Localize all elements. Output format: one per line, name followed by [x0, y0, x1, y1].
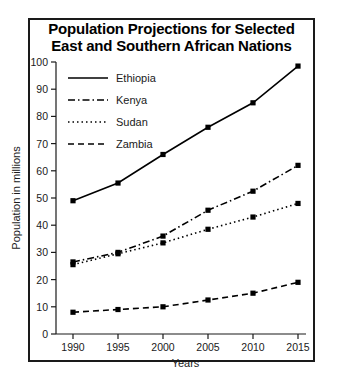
y-tick-label: 90 [36, 83, 48, 95]
x-tick-label: 2015 [286, 341, 310, 353]
series-line-kenya [73, 165, 298, 262]
data-point-kenya-2010 [250, 189, 255, 194]
data-point-ethiopia-1990 [70, 198, 75, 203]
x-tick-label: 2005 [196, 341, 220, 353]
y-tick-label: 20 [36, 274, 48, 286]
y-tick-label: 40 [36, 219, 48, 231]
data-point-ethiopia-2000 [160, 152, 165, 157]
series-line-ethiopia [73, 66, 298, 201]
data-point-sudan-2010 [250, 214, 255, 219]
x-tick-label: 2000 [151, 341, 175, 353]
data-point-kenya-2000 [160, 233, 165, 238]
data-point-kenya-2005 [205, 208, 210, 213]
data-point-ethiopia-2005 [205, 125, 210, 130]
data-point-zambia-1990 [70, 310, 75, 315]
legend-label-sudan: Sudan [116, 116, 148, 128]
data-point-ethiopia-2015 [295, 63, 300, 68]
data-point-sudan-1995 [115, 251, 120, 256]
series-zambia [70, 280, 300, 315]
data-point-ethiopia-1995 [115, 180, 120, 185]
y-tick-label: 10 [36, 301, 48, 313]
data-point-zambia-1995 [115, 307, 120, 312]
legend-label-zambia: Zambia [116, 138, 154, 150]
data-point-sudan-2015 [295, 201, 300, 206]
data-point-zambia-2015 [295, 280, 300, 285]
legend-item-ethiopia: Ethiopia [68, 72, 157, 84]
series-sudan [70, 201, 300, 267]
legend-label-ethiopia: Ethiopia [116, 72, 157, 84]
legend-item-sudan: Sudan [68, 116, 148, 128]
data-point-sudan-2005 [205, 227, 210, 232]
data-point-kenya-2015 [295, 163, 300, 168]
data-point-ethiopia-2010 [250, 100, 255, 105]
x-axis-title: Years [172, 357, 200, 369]
data-point-zambia-2000 [160, 304, 165, 309]
data-point-zambia-2005 [205, 297, 210, 302]
y-axis-title: Population in millions [10, 146, 22, 250]
legend-label-kenya: Kenya [116, 94, 148, 106]
chart-legend: EthiopiaKenyaSudanZambia [68, 72, 157, 150]
legend-item-kenya: Kenya [68, 94, 148, 106]
y-tick-label: 30 [36, 246, 48, 258]
data-series-group [70, 63, 300, 314]
series-kenya [70, 163, 300, 265]
x-tick-label: 1995 [106, 341, 130, 353]
data-point-zambia-2010 [250, 291, 255, 296]
legend-item-zambia: Zambia [68, 138, 154, 150]
y-tick-label: 60 [36, 165, 48, 177]
y-tick-label: 0 [42, 328, 48, 340]
y-tick-label: 70 [36, 138, 48, 150]
series-ethiopia [70, 63, 300, 203]
x-tick-label: 2010 [241, 341, 265, 353]
data-point-sudan-1990 [70, 262, 75, 267]
y-tick-label: 80 [36, 110, 48, 122]
x-tick-label: 1990 [61, 341, 85, 353]
y-tick-label: 100 [30, 56, 48, 68]
data-point-sudan-2000 [160, 240, 165, 245]
series-line-zambia [73, 282, 298, 312]
line-chart: 0102030405060708090100199019952000200520… [0, 0, 341, 382]
y-tick-label: 50 [36, 192, 48, 204]
